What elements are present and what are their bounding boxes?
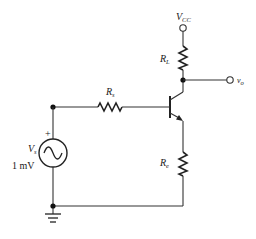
output-terminal: vo (227, 76, 245, 86)
source-resistor: Rs (98, 86, 122, 111)
collector-lead (170, 92, 183, 100)
svg-text:Re: Re (159, 157, 169, 169)
rs-label: R (105, 86, 112, 97)
svg-text:vo: vo (237, 76, 245, 86)
svg-text:Vs: Vs (28, 143, 37, 155)
emitter-resistor: Re (159, 152, 187, 176)
rl-label: R (159, 53, 166, 64)
rl-subscript: L (165, 58, 170, 65)
vo-subscript: o (241, 79, 245, 86)
emitter-arrow-icon (176, 115, 183, 121)
svg-text:VCC: VCC (176, 11, 191, 23)
vcc-terminal: VCC (176, 11, 191, 31)
svg-text:RL: RL (159, 53, 170, 65)
polarity-plus: + (45, 128, 51, 139)
load-resistor: RL (159, 46, 187, 70)
re-subscript: e (166, 162, 169, 169)
svg-text:Rs: Rs (105, 86, 115, 98)
ac-voltage-source: + Vs 1 mV (12, 128, 67, 171)
resistor-zigzag-icon (179, 152, 187, 176)
resistor-zigzag-icon (179, 46, 187, 70)
re-label: R (159, 157, 166, 168)
resistor-zigzag-icon (98, 103, 122, 111)
ground-icon (45, 214, 61, 222)
circuit-diagram: VCC RL vo Rs + Vs 1 mV (0, 0, 256, 239)
rs-subscript: s (112, 91, 115, 98)
ground-node (50, 203, 55, 208)
vs-subscript: s (34, 148, 37, 155)
npn-transistor (170, 89, 183, 152)
vcc-subscript: CC (182, 16, 191, 23)
vs-value: 1 mV (12, 160, 35, 171)
